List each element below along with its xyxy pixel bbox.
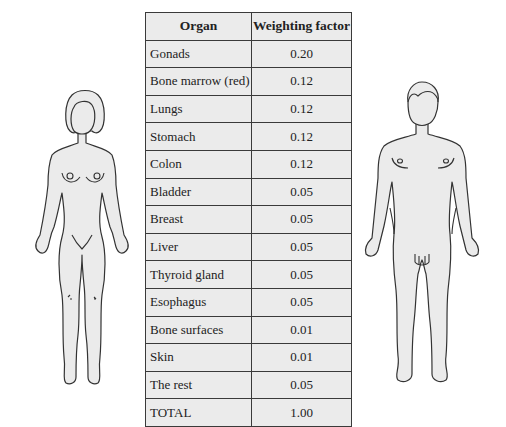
- header-weighting-factor: Weighting factor: [252, 13, 352, 41]
- organ-cell: Bone marrow (red): [146, 68, 252, 96]
- organ-cell: TOTAL: [146, 399, 252, 427]
- organ-cell: Bladder: [146, 178, 252, 206]
- factor-cell: 0.05: [252, 178, 352, 206]
- table-row: Liver0.05: [146, 233, 352, 261]
- organ-cell: Liver: [146, 233, 252, 261]
- factor-cell: 0.05: [252, 261, 352, 289]
- table-row: Thyroid gland0.05: [146, 261, 352, 289]
- factor-cell: 0.20: [252, 40, 352, 68]
- female-body-figure: [20, 85, 145, 403]
- header-organ: Organ: [146, 13, 252, 41]
- organ-cell: Lungs: [146, 95, 252, 123]
- table-row: Bone marrow (red)0.12: [146, 68, 352, 96]
- organ-cell: Colon: [146, 150, 252, 178]
- factor-cell: 0.12: [252, 123, 352, 151]
- table-row: Stomach0.12: [146, 123, 352, 151]
- factor-cell: 0.05: [252, 371, 352, 399]
- factor-cell: 0.12: [252, 68, 352, 96]
- table-row: Bladder0.05: [146, 178, 352, 206]
- table-row: Bone surfaces0.01: [146, 316, 352, 344]
- table-row: Esophagus0.05: [146, 288, 352, 316]
- table-row: The rest0.05: [146, 371, 352, 399]
- table-row: Gonads0.20: [146, 40, 352, 68]
- table-total-row: TOTAL1.00: [146, 399, 352, 427]
- factor-cell: 0.05: [252, 206, 352, 234]
- male-body-figure: [360, 78, 490, 398]
- table-row: Skin0.01: [146, 344, 352, 372]
- organ-cell: Skin: [146, 344, 252, 372]
- organ-cell: Bone surfaces: [146, 316, 252, 344]
- weighting-factor-table-container: Organ Weighting factor Gonads0.20 Bone m…: [145, 12, 352, 427]
- table-row: Lungs0.12: [146, 95, 352, 123]
- factor-cell: 1.00: [252, 399, 352, 427]
- organ-cell: Thyroid gland: [146, 261, 252, 289]
- factor-cell: 0.12: [252, 150, 352, 178]
- organ-cell: The rest: [146, 371, 252, 399]
- organ-cell: Esophagus: [146, 288, 252, 316]
- table-row: Breast0.05: [146, 206, 352, 234]
- table-header-row: Organ Weighting factor: [146, 13, 352, 41]
- organ-cell: Breast: [146, 206, 252, 234]
- factor-cell: 0.12: [252, 95, 352, 123]
- factor-cell: 0.05: [252, 233, 352, 261]
- factor-cell: 0.01: [252, 344, 352, 372]
- organ-cell: Gonads: [146, 40, 252, 68]
- weighting-factor-table: Organ Weighting factor Gonads0.20 Bone m…: [145, 12, 352, 427]
- factor-cell: 0.01: [252, 316, 352, 344]
- factor-cell: 0.05: [252, 288, 352, 316]
- table-row: Colon0.12: [146, 150, 352, 178]
- organ-cell: Stomach: [146, 123, 252, 151]
